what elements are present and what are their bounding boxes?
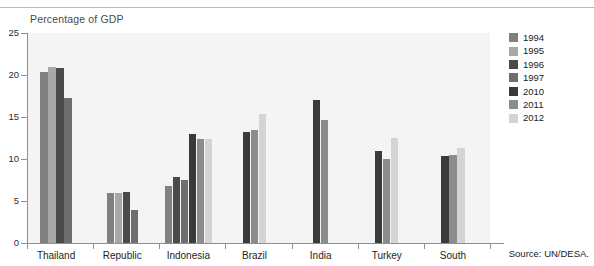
bar [449,155,456,243]
bar [205,139,212,243]
y-axis-tick-label: 10 [0,153,19,164]
y-axis-tick-label: 5 [0,195,19,206]
bar [56,68,63,243]
bar [375,151,382,243]
x-axis-tick [292,244,293,249]
legend-swatch [509,33,518,42]
x-axis-tick-label: India [310,250,332,261]
bar [48,67,55,243]
bar-groups [28,33,490,243]
source-note: Source: UN/DESA. [509,248,589,259]
x-axis-tick [27,244,28,249]
bar [107,193,114,243]
legend-item: 2012 [509,111,589,124]
bar [165,186,172,243]
legend-label: 2011 [523,100,543,110]
legend-label: 1996 [523,60,544,70]
bar [251,130,258,243]
y-axis-tick [21,117,27,118]
legend-label: 1995 [523,46,544,56]
chart-figure: Percentage of GDP 2520151050 ThailandRep… [0,0,594,266]
x-axis-tick [424,244,425,249]
x-axis-tick-label: Thailand [37,250,75,261]
legend-swatch [509,73,518,82]
header-divider [0,7,594,8]
y-axis-tick [21,201,27,202]
x-axis-tick [159,244,160,249]
y-axis-tick-label: 25 [0,27,19,38]
bar [243,132,250,243]
x-axis-tick-label: Republic [103,250,142,261]
x-axis-tick [490,244,491,249]
legend-swatch [509,100,518,109]
x-axis-tick [225,244,226,249]
legend-swatch [509,87,518,96]
legend-label: 1994 [523,33,544,43]
x-axis-tick-label: Brazil [242,250,267,261]
legend-swatch [509,114,518,123]
bar [391,138,398,243]
y-axis-tick-label: 0 [0,237,19,248]
bar [259,114,266,243]
y-axis-tick-label: 15 [0,111,19,122]
bar [189,134,196,243]
y-axis-tick [21,159,27,160]
bar [313,100,320,243]
legend-item: 1996 [509,58,589,71]
x-axis-tick [358,244,359,249]
legend-label: 2010 [523,87,544,97]
x-axis-tick-label: Indonesia [167,250,210,261]
legend-item: 2010 [509,85,589,98]
y-axis-tick [21,75,27,76]
legend-item: 1995 [509,44,589,57]
bar [173,177,180,243]
legend-item: 1997 [509,71,589,84]
bar [457,148,464,243]
x-axis-tick-label: Turkey [372,250,402,261]
bar [197,139,204,243]
chart-legend: 1994199519961997201020112012 [509,31,589,125]
y-axis-tick-label: 20 [0,69,19,80]
bar [115,193,122,243]
bar [383,159,390,243]
legend-item: 2011 [509,98,589,111]
legend-swatch [509,60,518,69]
bar [40,72,47,243]
bar [181,180,188,243]
bar [321,120,328,243]
x-axis-tick-label: South [440,250,466,261]
bar [64,98,71,243]
x-axis-tick [93,244,94,249]
bar [131,210,138,243]
x-axis-line [27,243,504,244]
legend-swatch [509,47,518,56]
legend-label: 2012 [523,113,544,123]
bar [123,192,130,243]
legend-label: 1997 [523,73,544,83]
legend-item: 1994 [509,31,589,44]
chart-subtitle: Percentage of GDP [30,13,124,25]
bar [441,156,448,243]
y-axis-tick [21,33,27,34]
